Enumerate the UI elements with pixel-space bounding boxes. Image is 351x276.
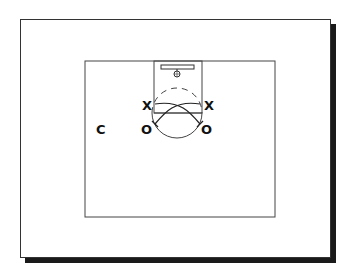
player-o-left: O: [141, 122, 152, 137]
backboard: [161, 65, 194, 69]
player-x-right: X: [204, 98, 214, 113]
cut-path-right-to-left: [155, 103, 200, 124]
free-throw-circle-top: [152, 88, 202, 113]
player-o-right: O: [201, 122, 212, 137]
coach-label: C: [96, 122, 106, 137]
court-diagram: X X O O C: [0, 0, 351, 276]
cut-path-left-to-right: [155, 103, 200, 124]
player-x-left: X: [142, 98, 152, 113]
half-court-boundary: [85, 61, 275, 217]
free-throw-circle-bottom: [152, 113, 202, 138]
